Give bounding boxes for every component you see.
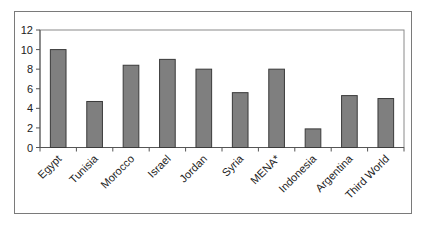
x-category-label: Tunisia [67,152,101,186]
y-tick-label: 12 [21,24,33,36]
x-category-label: Jordan [177,152,209,184]
x-category-label: Israel [145,152,173,180]
x-category-label: Egypt [35,152,63,180]
x-category-label: Indonesia [276,152,319,195]
y-tick-label: 8 [27,63,33,75]
y-tick-label: 2 [27,122,33,134]
bar-egypt [50,50,66,148]
bar-syria [232,93,248,148]
y-tick-label: 4 [27,102,33,114]
x-category-label: Syria [219,152,246,179]
y-tick-label: 6 [27,83,33,95]
bar-tunisia [87,101,103,147]
bar-israel [160,59,176,147]
bar-mena [269,69,285,147]
y-tick-label: 10 [21,44,33,56]
bar-indonesia [305,129,321,148]
y-tick-label: 0 [27,142,33,154]
bar-third-world [378,99,394,148]
bar-argentina [342,96,358,148]
bar-chart: 024681012EgyptTunisiaMoroccoIsraelJordan… [0,0,428,227]
bar-morocco [123,65,139,147]
x-category-label: Morocco [98,152,136,190]
x-category-label: MENA* [248,152,282,186]
bar-jordan [196,69,212,147]
